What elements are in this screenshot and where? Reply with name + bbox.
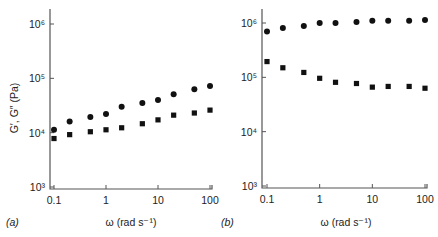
y-tick-label: 10⁵ (241, 71, 257, 83)
g-prime-point (119, 104, 125, 110)
x-tick-label: 0.1 (260, 193, 275, 205)
g-prime-point (385, 18, 391, 24)
g-prime-point (406, 18, 412, 24)
g-prime-point (333, 20, 339, 26)
x-tick-label: 100 (201, 194, 219, 206)
g-prime-point (87, 114, 93, 120)
g-double-prime-point (317, 76, 322, 81)
panel-b-points (264, 17, 428, 91)
g-prime-point (191, 86, 197, 92)
x-tick-label: 10 (366, 193, 378, 205)
g-double-prime-point (88, 129, 93, 134)
g-double-prime-point (422, 86, 427, 91)
g-prime-point (51, 127, 57, 133)
g-double-prime-point (264, 59, 269, 64)
g-double-prime-point (119, 125, 124, 130)
g-double-prime-point (51, 136, 56, 141)
g-prime-point (264, 28, 270, 34)
g-prime-point (155, 97, 161, 103)
g-double-prime-point (386, 84, 391, 89)
y-tick-label: 10³ (242, 180, 258, 192)
g-double-prime-point (333, 80, 338, 85)
panel-b-label: (b) (221, 216, 234, 228)
g-prime-point (422, 17, 428, 23)
panel-b: 10³10⁴10⁵10⁶ 0.1110100 ω (rad s⁻¹) (b) (221, 9, 434, 228)
panel-a-label: (a) (6, 216, 19, 228)
y-tick-label: 10⁶ (29, 18, 45, 30)
g-double-prime-point (354, 81, 359, 86)
g-prime-point (369, 18, 375, 24)
g-double-prime-point (192, 110, 197, 115)
x-tick-label: 0.1 (47, 194, 62, 206)
panel-a-x-axis-title: ω (rad s⁻¹) (106, 216, 157, 228)
g-prime-point (317, 20, 323, 26)
x-tick-label: 10 (152, 194, 164, 206)
y-tick-label: 10⁶ (241, 17, 257, 29)
g-double-prime-point (407, 84, 412, 89)
y-axis-title: G′, G″ (Pa) (8, 83, 20, 134)
x-tick-label: 100 (416, 193, 434, 205)
y-tick-label: 10⁴ (29, 127, 45, 139)
g-prime-point (301, 23, 307, 29)
panel-b-x-axis-title: ω (rad s⁻¹) (321, 216, 372, 228)
g-double-prime-point (171, 113, 176, 118)
g-double-prime-point (280, 65, 285, 70)
g-prime-point (207, 83, 213, 89)
y-tick-label: 10³ (30, 181, 46, 193)
panel-a-axes (50, 9, 212, 189)
x-tick-label: 1 (103, 194, 109, 206)
g-double-prime-point (370, 85, 375, 90)
g-prime-point (171, 91, 177, 97)
y-tick-label: 10⁴ (241, 126, 257, 138)
g-prime-point (353, 19, 359, 25)
g-prime-point (280, 25, 286, 31)
g-prime-point (139, 100, 145, 106)
figure: 10³10⁴10⁵10⁶ 0.1110100 G′, G″ (Pa) ω (ra… (0, 0, 438, 237)
panel-b-x-ticks: 0.1110100 (260, 184, 434, 205)
x-tick-label: 1 (317, 193, 323, 205)
g-double-prime-point (103, 127, 108, 132)
panel-a-x-ticks: 0.1110100 (47, 185, 219, 206)
g-prime-point (67, 119, 73, 125)
g-double-prime-point (67, 132, 72, 137)
g-double-prime-point (207, 108, 212, 113)
y-tick-label: 10⁵ (29, 72, 45, 84)
panel-b-axes (262, 9, 427, 188)
g-double-prime-point (155, 117, 160, 122)
g-double-prime-point (301, 70, 306, 75)
panel-a-points (51, 83, 213, 141)
g-double-prime-point (140, 121, 145, 126)
g-prime-point (103, 111, 109, 117)
panel-a: 10³10⁴10⁵10⁶ 0.1110100 G′, G″ (Pa) ω (ra… (6, 9, 219, 228)
